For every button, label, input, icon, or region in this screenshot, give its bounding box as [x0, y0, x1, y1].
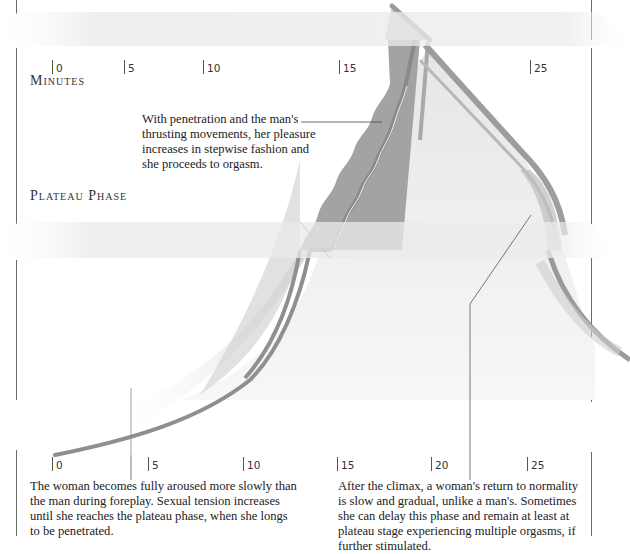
top-tick-15: 15 — [339, 60, 356, 74]
bottom-tick-15: 15 — [337, 457, 354, 471]
plateau-phase-label: Plateau Phase — [30, 188, 127, 204]
bottom-tick-0: 0 — [52, 457, 63, 471]
bottom-tick-10: 10 — [243, 457, 260, 471]
minutes-axis-label: Minutes — [30, 73, 85, 89]
stepwise-ascent-panel — [300, 40, 420, 250]
top-plane-band — [0, 12, 630, 46]
penetration-annotation: With penetration and the man's thrusting… — [142, 112, 317, 172]
bottom-tick-5: 5 — [148, 457, 159, 471]
bottom-tick-25: 25 — [527, 457, 544, 471]
resolution-annotation: After the climax, a woman's return to no… — [338, 479, 588, 554]
bottom-tick-20: 20 — [431, 457, 448, 471]
top-tick-25: 25 — [530, 60, 547, 74]
arousal-annotation: The woman becomes fully aroused more slo… — [30, 479, 298, 539]
top-tick-0: 0 — [52, 60, 63, 74]
top-tick-5: 5 — [124, 60, 135, 74]
plateau-plane-band — [0, 222, 618, 258]
top-tick-10: 10 — [203, 60, 220, 74]
